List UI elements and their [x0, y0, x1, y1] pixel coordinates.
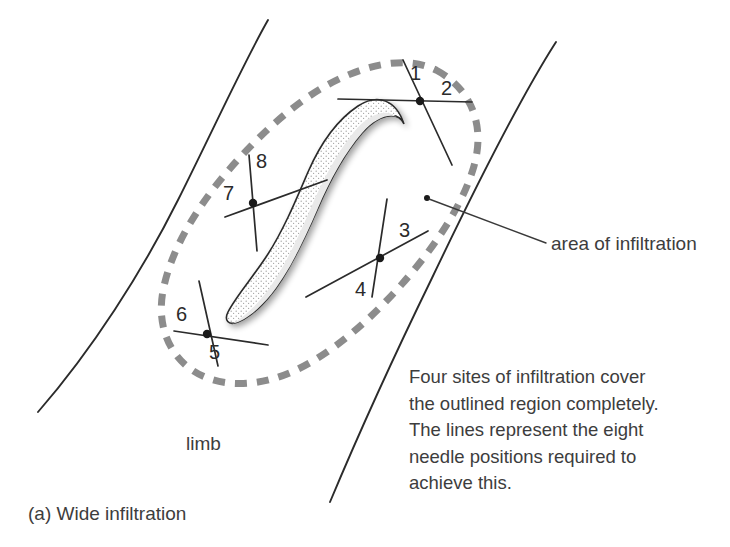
needle-label-7: 7	[223, 182, 234, 205]
needle-label-2: 2	[441, 77, 452, 100]
figure-description-line-2: the outlined region completely.	[409, 391, 709, 418]
area-of-infiltration-label: area of infiltration	[551, 233, 697, 255]
needle-line-4	[372, 199, 387, 297]
needle-label-6: 6	[176, 303, 187, 326]
needle-label-8: 8	[256, 150, 267, 173]
needle-label-5: 5	[209, 341, 220, 364]
figure-root: 1 2 3 4 6 5 8 7 area of infiltration lim…	[0, 0, 730, 547]
area-of-infiltration-dot	[424, 195, 430, 201]
figure-description-line-4: needle positions required to	[409, 444, 709, 471]
lesion-shape	[226, 100, 404, 332]
injection-site-dot-7-8	[249, 199, 257, 207]
area-of-infiltration-leader-line	[429, 199, 546, 243]
figure-description-line-3: The lines represent the eight	[409, 417, 709, 444]
limb-label: limb	[186, 433, 221, 455]
injection-site-dot-1-2	[416, 97, 424, 105]
needle-label-3: 3	[399, 219, 410, 242]
figure-description-line-5: achieve this.	[409, 470, 709, 497]
area-of-infiltration-leader	[424, 195, 546, 243]
figure-caption: (a) Wide infiltration	[28, 503, 186, 525]
injection-site-dot-3-4	[376, 254, 384, 262]
needle-lines	[174, 60, 472, 366]
injection-site-dot-5-6	[203, 330, 211, 338]
needle-line-6	[174, 331, 268, 345]
figure-description: Four sites of infiltration cover the out…	[409, 364, 709, 497]
limb-outline-left	[38, 20, 268, 412]
needle-label-1: 1	[410, 62, 421, 85]
needle-label-4: 4	[355, 278, 366, 301]
figure-description-line-1: Four sites of infiltration cover	[409, 364, 709, 391]
